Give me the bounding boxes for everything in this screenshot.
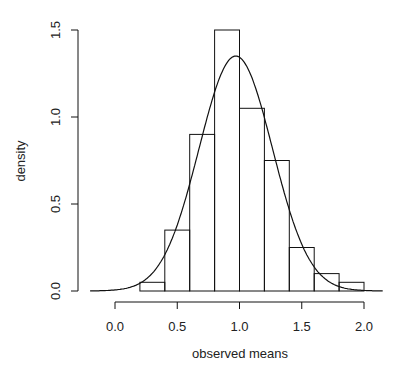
y-axis-label: density	[13, 140, 28, 182]
histogram-bar	[264, 161, 289, 292]
histogram-bar	[165, 230, 190, 291]
histogram-bar	[215, 30, 240, 291]
y-tick-label: 1.5	[48, 21, 63, 39]
y-axis: 0.00.51.01.5	[48, 21, 78, 300]
x-tick-label: 1.5	[293, 319, 311, 334]
x-axis: 0.00.51.01.52.0	[106, 302, 373, 334]
density-curve	[90, 56, 383, 291]
x-axis-label: observed means	[192, 346, 289, 361]
histogram-bar	[314, 274, 339, 291]
histogram-bar	[240, 108, 265, 291]
histogram-bar	[190, 134, 215, 291]
x-tick-label: 0.5	[168, 319, 186, 334]
histogram-bar	[140, 282, 165, 291]
x-tick-label: 1.0	[230, 319, 248, 334]
y-tick-label: 0.0	[48, 282, 63, 300]
y-tick-label: 0.5	[48, 195, 63, 213]
x-tick-label: 2.0	[355, 319, 373, 334]
y-tick-label: 1.0	[48, 108, 63, 126]
x-tick-label: 0.0	[106, 319, 124, 334]
histogram-chart: 0.00.51.01.5 0.00.51.01.52.0 observed me…	[0, 0, 403, 376]
histogram-bar	[289, 248, 314, 292]
histogram-bars	[140, 30, 364, 291]
